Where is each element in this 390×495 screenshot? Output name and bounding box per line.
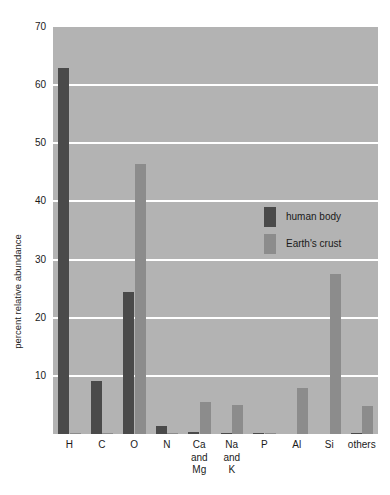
x-tick-label-others: others bbox=[346, 439, 379, 452]
bar-N-earth-s-crust bbox=[167, 433, 178, 435]
bar-O-earth-s-crust bbox=[135, 164, 146, 434]
x-tick-label-line: H bbox=[53, 439, 86, 452]
x-tick-label-line: Al bbox=[281, 439, 314, 452]
x-tick-label-line: others bbox=[346, 439, 379, 452]
x-tick-label-line: Si bbox=[313, 439, 346, 452]
bar-Si-earth-s-crust bbox=[330, 274, 341, 434]
y-tick-label-70: 70 bbox=[4, 22, 46, 32]
y-tick-label-20: 20 bbox=[4, 313, 46, 323]
y-tick-label-30: 30 bbox=[4, 255, 46, 265]
x-tick-label-line: P bbox=[248, 439, 281, 452]
bar-Al-earth-s-crust bbox=[297, 388, 308, 434]
bar-others-earth-s-crust bbox=[362, 406, 373, 434]
legend-item-human-body: human body bbox=[264, 207, 384, 234]
bar-N-human-body bbox=[156, 426, 167, 434]
bar-chart-figure: 10203040506070 percent relative abundanc… bbox=[0, 0, 390, 495]
bar-C-earth-s-crust bbox=[102, 433, 113, 435]
y-tick-label-10: 10 bbox=[4, 371, 46, 381]
x-tick-label-line: and bbox=[183, 452, 216, 465]
bar-H-human-body bbox=[58, 68, 69, 434]
legend-item-earth-s-crust: Earth's crust bbox=[264, 234, 384, 261]
x-tick-label-C: C bbox=[86, 439, 119, 452]
y-tick-label-40: 40 bbox=[4, 196, 46, 206]
x-tick-label-H: H bbox=[53, 439, 86, 452]
legend-label: human body bbox=[286, 211, 341, 222]
bar-Ca-and-Mg-human-body bbox=[188, 432, 199, 434]
x-tick-label-line: Mg bbox=[183, 464, 216, 477]
x-tick-label-line: and bbox=[216, 452, 249, 465]
plot-area: human bodyEarth's crust bbox=[53, 27, 378, 434]
bar-C-human-body bbox=[91, 381, 102, 434]
x-tick-label-line: C bbox=[86, 439, 119, 452]
y-axis-title: percent relative abundance bbox=[12, 202, 23, 382]
x-tick-label-line: O bbox=[118, 439, 151, 452]
y-axis: 10203040506070 bbox=[0, 0, 53, 495]
x-tick-label-line: K bbox=[216, 464, 249, 477]
bar-Na-and-K-earth-s-crust bbox=[232, 405, 243, 434]
bar-P-human-body bbox=[253, 433, 264, 435]
bar-Na-and-K-human-body bbox=[221, 433, 232, 435]
x-tick-label-line: N bbox=[151, 439, 184, 452]
x-tick-label-Ca-and-Mg: CaandMg bbox=[183, 439, 216, 477]
bar-P-earth-s-crust bbox=[265, 433, 276, 435]
x-tick-label-line: Na bbox=[216, 439, 249, 452]
x-tick-label-Si: Si bbox=[313, 439, 346, 452]
x-tick-label-N: N bbox=[151, 439, 184, 452]
x-tick-label-O: O bbox=[118, 439, 151, 452]
legend-swatch bbox=[264, 207, 276, 227]
bar-O-human-body bbox=[123, 292, 134, 434]
legend-label: Earth's crust bbox=[286, 238, 341, 249]
chart-legend: human bodyEarth's crust bbox=[264, 207, 384, 261]
bar-H-earth-s-crust bbox=[70, 433, 81, 435]
x-tick-label-Al: Al bbox=[281, 439, 314, 452]
x-axis: HCONCaandMgNaandKPAlSiothers bbox=[53, 436, 378, 495]
x-tick-label-P: P bbox=[248, 439, 281, 452]
bar-Ca-and-Mg-earth-s-crust bbox=[200, 402, 211, 434]
x-tick-label-Na-and-K: NaandK bbox=[216, 439, 249, 477]
legend-swatch bbox=[264, 234, 276, 254]
x-tick-label-line: Ca bbox=[183, 439, 216, 452]
y-tick-label-50: 50 bbox=[4, 138, 46, 148]
y-tick-label-60: 60 bbox=[4, 80, 46, 90]
bar-others-human-body bbox=[351, 433, 362, 435]
